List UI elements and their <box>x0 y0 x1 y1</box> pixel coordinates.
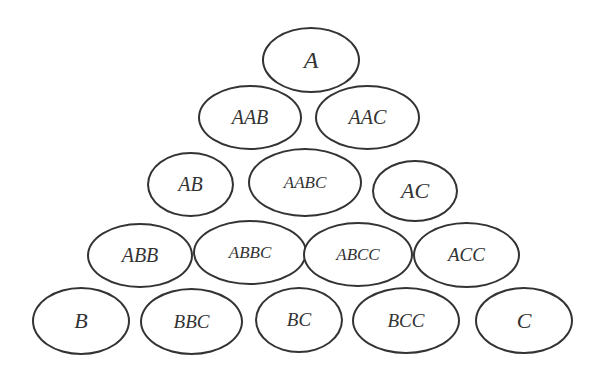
ellipse-node-b: B <box>32 287 130 355</box>
node-label: AABC <box>284 173 327 193</box>
ellipse-node-abbc: ABBC <box>193 220 307 285</box>
ellipse-node-abcc: ABCC <box>303 222 413 287</box>
node-label: B <box>74 308 87 334</box>
ellipse-node-a: A <box>262 27 360 93</box>
ellipse-node-aabc: AABC <box>248 148 362 217</box>
ellipse-node-ab: AB <box>147 152 234 217</box>
ellipse-node-abb: ABB <box>87 223 193 288</box>
ellipse-node-c: C <box>475 287 573 354</box>
ellipse-node-ac: AC <box>372 160 458 222</box>
ellipse-node-acc: ACC <box>413 222 520 288</box>
ellipse-lattice-diagram: AAABAACABAABCACABBABBCABCCACCBBBCBCBCCC <box>0 0 602 376</box>
node-label: BCC <box>388 310 425 332</box>
node-label: ABBC <box>229 243 272 263</box>
node-label: BBC <box>174 311 210 333</box>
node-label: ABCC <box>336 245 379 265</box>
node-label: ABB <box>122 244 159 267</box>
node-label: AAB <box>232 106 269 129</box>
node-label: ACC <box>448 244 485 266</box>
node-label: A <box>304 47 319 74</box>
ellipse-node-bc: BC <box>255 287 343 353</box>
ellipse-node-aab: AAB <box>198 85 302 150</box>
ellipse-node-bbc: BBC <box>140 288 243 355</box>
node-label: BC <box>287 309 311 331</box>
node-label: AB <box>178 173 202 196</box>
node-label: AC <box>401 178 429 204</box>
node-label: C <box>517 308 532 334</box>
node-label: AAC <box>349 106 387 129</box>
ellipse-node-bcc: BCC <box>352 287 460 354</box>
ellipse-node-aac: AAC <box>315 85 420 150</box>
